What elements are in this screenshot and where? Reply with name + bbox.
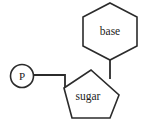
diagram-canvas: base sugar P [0, 0, 144, 128]
sugar-label: sugar [76, 90, 101, 103]
bond-phosphate-sugar [34, 75, 65, 89]
base-label: base [100, 25, 120, 37]
phosphate-label: P [19, 70, 25, 82]
nucleotide-diagram: base sugar P [0, 0, 144, 128]
